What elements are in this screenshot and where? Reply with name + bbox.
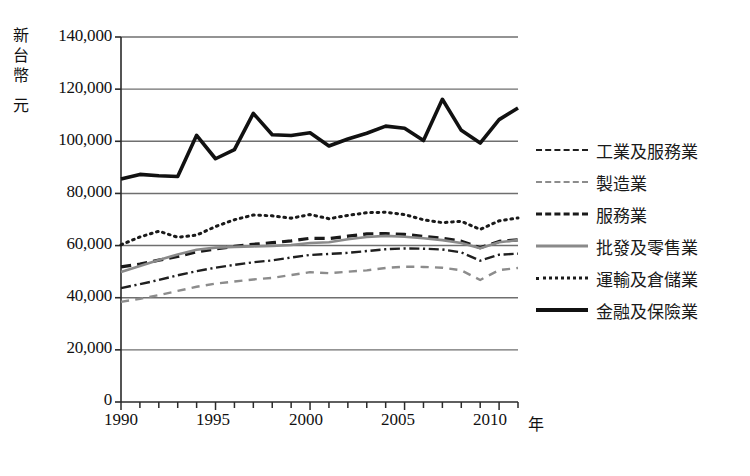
legend-label-1: 製造業	[596, 170, 647, 195]
legend-item-services[interactable]: 服務業	[536, 198, 750, 230]
legend-label-2: 服務業	[596, 202, 647, 227]
legend: 工業及服務業 製造業 服務業 批發及零售業 運輸及倉儲業	[536, 134, 750, 326]
legend-label-4: 運輸及倉儲業	[596, 266, 698, 291]
series-line-2	[121, 234, 518, 267]
legend-item-wholesale-retail[interactable]: 批發及零售業	[536, 230, 750, 262]
legend-swatch-dashed-light-icon	[536, 175, 588, 189]
legend-item-transport-storage[interactable]: 運輸及倉儲業	[536, 262, 750, 294]
legend-swatch-dashed-bold-icon	[536, 207, 588, 221]
legend-swatch-dotted-icon	[536, 271, 588, 285]
series-line-1	[121, 267, 518, 302]
legend-label-5: 金融及保險業	[596, 298, 698, 323]
legend-swatch-solid-gray-icon	[536, 239, 588, 253]
legend-label-3: 批發及零售業	[596, 234, 698, 259]
legend-item-industry-services[interactable]: 工業及服務業	[536, 134, 750, 166]
legend-item-finance-insurance[interactable]: 金融及保險業	[536, 294, 750, 326]
chart-figure: 新 台 幣 元 140,000 120,000 100,000 80,000 6…	[0, 0, 750, 476]
legend-item-manufacturing[interactable]: 製造業	[536, 166, 750, 198]
legend-swatch-dash-dot-icon	[536, 143, 588, 157]
series-line-5	[121, 99, 518, 179]
legend-swatch-solid-bold-icon	[536, 303, 588, 317]
legend-label-0: 工業及服務業	[596, 138, 698, 163]
